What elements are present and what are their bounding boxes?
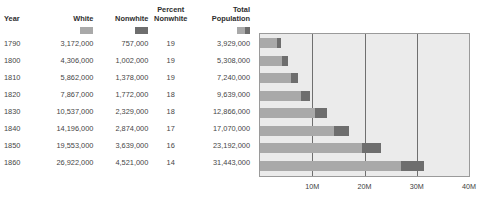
cell-white: 5,862,000 [34, 69, 93, 86]
cell-year: 1840 [4, 120, 34, 137]
cell-nonwhite: 1,002,000 [93, 52, 148, 69]
swatch-cell-nonwhite [93, 24, 148, 35]
cell-pct: 18 [148, 103, 193, 120]
cell-year: 1830 [4, 103, 34, 120]
cell-year: 1850 [4, 137, 34, 154]
swatch-cell-white [34, 24, 93, 35]
bar-segment-nonwhite-1810 [291, 73, 298, 83]
cell-nonwhite: 3,639,000 [93, 137, 148, 154]
population-table: Year White Nonwhite Percent Nonwhite Tot… [4, 6, 250, 171]
bar-row-1800 [260, 53, 469, 70]
cell-white: 3,172,000 [34, 35, 93, 52]
cell-pct: 19 [148, 52, 193, 69]
swatch-cell-percent [148, 24, 193, 35]
column-header-percent-nonwhite: Percent Nonwhite [148, 6, 193, 24]
stacked-bar-1810 [260, 73, 298, 83]
cell-year: 1790 [4, 35, 34, 52]
stacked-bar-1790 [260, 38, 281, 48]
stacked-bar-1860 [260, 161, 424, 171]
swatch-cell-total [193, 24, 250, 35]
cell-pct: 18 [148, 86, 193, 103]
cell-total: 5,308,000 [193, 52, 250, 69]
table-header: Year White Nonwhite Percent Nonwhite Tot… [4, 6, 250, 35]
population-table-and-chart: Year White Nonwhite Percent Nonwhite Tot… [0, 0, 488, 205]
bar-row-1850 [260, 140, 469, 157]
bar-segment-nonwhite-1830 [315, 108, 327, 118]
bar-segment-white-1860 [260, 161, 401, 171]
cell-nonwhite: 1,378,000 [93, 69, 148, 86]
table-row: 183010,537,0002,329,0001812,866,000 [4, 103, 250, 120]
bar-segment-nonwhite-1800 [282, 56, 287, 66]
bar-segment-white-1800 [260, 56, 282, 66]
cell-nonwhite: 757,000 [93, 35, 148, 52]
cell-white: 14,196,000 [34, 120, 93, 137]
data-table-panel: Year White Nonwhite Percent Nonwhite Tot… [0, 0, 252, 205]
cell-nonwhite: 1,772,000 [93, 86, 148, 103]
bar-segment-nonwhite-1860 [401, 161, 425, 171]
bar-segment-white-1850 [260, 143, 362, 153]
nonwhite-swatch-icon [135, 27, 148, 34]
bar-row-1810 [260, 70, 469, 87]
cell-year: 1820 [4, 86, 34, 103]
bar-row-1840 [260, 123, 469, 140]
x-tick-label-40M: 40M [462, 182, 476, 191]
cell-total: 31,443,000 [193, 154, 250, 171]
cell-pct: 16 [148, 137, 193, 154]
cell-pct: 19 [148, 35, 193, 52]
bar-segment-nonwhite-1840 [334, 126, 349, 136]
cell-nonwhite: 2,874,000 [93, 120, 148, 137]
column-header-total-population: Total Population [193, 6, 250, 24]
cell-total: 12,866,000 [193, 103, 250, 120]
stacked-bar-1800 [260, 56, 288, 66]
stacked-bar-1850 [260, 143, 381, 153]
stacked-bar-1820 [260, 91, 310, 101]
bar-segment-white-1790 [260, 38, 277, 48]
table-row: 18105,862,0001,378,000197,240,000 [4, 69, 250, 86]
cell-total: 9,639,000 [193, 86, 250, 103]
bar-row-1820 [260, 88, 469, 105]
cell-white: 4,306,000 [34, 52, 93, 69]
cell-white: 19,553,000 [34, 137, 93, 154]
table-row: 186026,922,0004,521,0001431,443,000 [4, 154, 250, 171]
bar-segment-white-1830 [260, 108, 315, 118]
cell-total: 3,929,000 [193, 35, 250, 52]
cell-white: 7,867,000 [34, 86, 93, 103]
bar-segment-white-1820 [260, 91, 301, 101]
bar-row-1790 [260, 35, 469, 52]
table-row: 184014,196,0002,874,0001717,070,000 [4, 120, 250, 137]
x-tick-label-10M: 10M [305, 182, 319, 191]
cell-year: 1810 [4, 69, 34, 86]
bar-row-1830 [260, 105, 469, 122]
cell-total: 17,070,000 [193, 120, 250, 137]
bar-row-1860 [260, 158, 469, 175]
cell-pct: 14 [148, 154, 193, 171]
table-row: 18004,306,0001,002,000195,308,000 [4, 52, 250, 69]
legend-swatch-row [4, 24, 250, 35]
bar-chart-panel: 10M20M30M40M [254, 0, 488, 205]
column-header-nonwhite: Nonwhite [93, 6, 148, 24]
chart-x-axis: 10M20M30M40M [259, 177, 470, 197]
stacked-bar-1840 [260, 126, 349, 136]
cell-year: 1860 [4, 154, 34, 171]
cell-total: 23,192,000 [193, 137, 250, 154]
column-header-white: White [34, 6, 93, 24]
chart-plot-area [259, 33, 470, 177]
cell-total: 7,240,000 [193, 69, 250, 86]
table-row: 185019,553,0003,639,0001623,192,000 [4, 137, 250, 154]
cell-nonwhite: 4,521,000 [93, 154, 148, 171]
x-tick-label-20M: 20M [358, 182, 372, 191]
cell-white: 10,537,000 [34, 103, 93, 120]
bar-segment-white-1840 [260, 126, 334, 136]
swatch-cell-year [4, 24, 34, 35]
bar-segment-nonwhite-1820 [301, 91, 310, 101]
cell-nonwhite: 2,329,000 [93, 103, 148, 120]
table-header-row: Year White Nonwhite Percent Nonwhite Tot… [4, 6, 250, 24]
total-swatch-icon [237, 27, 250, 34]
cell-white: 26,922,000 [34, 154, 93, 171]
cell-pct: 17 [148, 120, 193, 137]
cell-pct: 19 [148, 69, 193, 86]
x-tick-label-30M: 30M [410, 182, 424, 191]
bar-segment-nonwhite-1850 [362, 143, 381, 153]
stacked-bar-1830 [260, 108, 327, 118]
column-header-year: Year [4, 6, 34, 24]
